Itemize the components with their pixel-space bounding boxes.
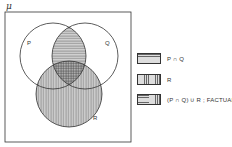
label-r: R (93, 115, 98, 121)
legend-label: R (167, 77, 172, 83)
combined-swatch (137, 94, 161, 105)
vertical-lines-swatch (137, 74, 161, 85)
legend-item-union: (P ∩ Q) ∪ R ; FACTUAL. (137, 94, 232, 105)
legend-item-p-and-q: P ∩ Q (137, 53, 184, 64)
legend-item-r: R (137, 74, 172, 85)
legend-label: (P ∩ Q) ∪ R ; FACTUAL. (167, 96, 232, 103)
label-q: Q (105, 40, 110, 46)
venn-diagram: P Q R (0, 0, 232, 147)
horizontal-lines-swatch (137, 53, 161, 64)
label-p: P (27, 40, 31, 46)
legend-label: P ∩ Q (167, 56, 184, 62)
